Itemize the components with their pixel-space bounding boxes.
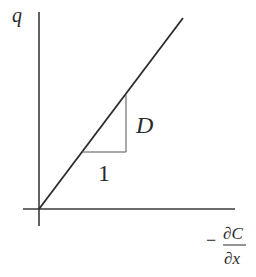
x-axis-label-numerator: ∂C	[223, 224, 243, 243]
y-axis-label: q	[12, 4, 22, 27]
flux-gradient-diagram: q 1 D − ∂C ∂x	[0, 0, 256, 277]
rise-label: D	[135, 112, 153, 138]
run-label: 1	[98, 160, 110, 186]
x-axis-label-sign: −	[206, 230, 216, 250]
flux-line	[39, 18, 183, 209]
x-axis-label-denominator: ∂x	[224, 249, 240, 268]
